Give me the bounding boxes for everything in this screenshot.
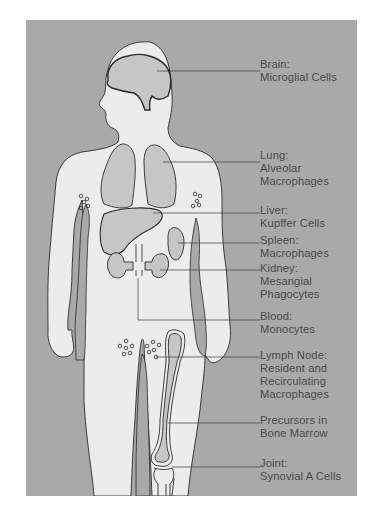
label-title: Lung: bbox=[260, 149, 329, 162]
label-line: Monocytes bbox=[260, 323, 315, 336]
label-kidney: Kidney: Mesangial Phagocytes bbox=[260, 262, 319, 301]
label-title: Joint: bbox=[260, 457, 341, 470]
label-line: Macrophages bbox=[260, 388, 329, 401]
label-blood: Blood: Monocytes bbox=[260, 310, 315, 336]
label-line: Microglial Cells bbox=[260, 71, 337, 84]
label-bone-marrow: Precursors in Bone Marrow bbox=[260, 414, 328, 440]
label-line: Kupffer Cells bbox=[260, 217, 325, 230]
label-line: Bone Marrow bbox=[260, 427, 328, 440]
label-line: Macrophages bbox=[260, 247, 329, 260]
label-title: Kidney: bbox=[260, 262, 319, 275]
label-title: Brain: bbox=[260, 58, 337, 71]
label-lymph-node: Lymph Node: Resident and Recirculating M… bbox=[260, 349, 329, 401]
label-line: Recirculating bbox=[260, 375, 329, 388]
label-title: Blood: bbox=[260, 310, 315, 323]
label-title: Precursors in bbox=[260, 414, 328, 427]
label-line: Phagocytes bbox=[260, 288, 319, 301]
label-lung: Lung: Alveolar Macrophages bbox=[260, 149, 329, 188]
label-line: Synovial A Cells bbox=[260, 470, 341, 483]
label-liver: Liver: Kupffer Cells bbox=[260, 204, 325, 230]
spleen bbox=[168, 228, 184, 260]
label-title: Liver: bbox=[260, 204, 325, 217]
label-line: Macrophages bbox=[260, 175, 329, 188]
diagram-panel: Brain: Microglial Cells Lung: Alveolar M… bbox=[26, 20, 357, 496]
label-brain: Brain: Microglial Cells bbox=[260, 58, 337, 84]
label-line: Mesangial bbox=[260, 275, 319, 288]
label-line: Resident and bbox=[260, 362, 329, 375]
label-title: Spleen: bbox=[260, 234, 329, 247]
label-title: Lymph Node: bbox=[260, 349, 329, 362]
label-joint: Joint: Synovial A Cells bbox=[260, 457, 341, 483]
label-line: Alveolar bbox=[260, 162, 329, 175]
label-spleen: Spleen: Macrophages bbox=[260, 234, 329, 260]
